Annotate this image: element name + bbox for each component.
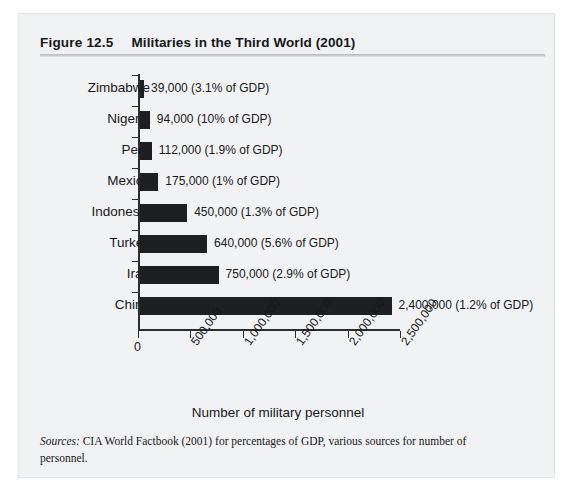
bar-row: Zimbabwe39,000 (3.1% of GDP) (18, 74, 555, 105)
bar (140, 142, 152, 160)
y-axis-tick (132, 261, 139, 262)
bar-value-label: 39,000 (3.1% of GDP) (151, 81, 269, 95)
bar (140, 266, 219, 284)
bar (140, 173, 158, 191)
source-note: Sources: CIA World Factbook (2001) for p… (40, 433, 510, 466)
x-axis-tick (138, 331, 139, 338)
bar-row: Peru112,000 (1.9% of GDP) (18, 136, 555, 167)
bar (140, 204, 187, 222)
bar-row: Iran750,000 (2.9% of GDP) (18, 260, 555, 291)
x-axis-title: Number of military personnel (138, 405, 418, 420)
bar-row: Indonesia450,000 (1.3% of GDP) (18, 198, 555, 229)
bar-value-label: 94,000 (10% of GDP) (157, 112, 272, 126)
bar-value-label: 750,000 (2.9% of GDP) (226, 267, 351, 281)
y-axis-tick (132, 137, 139, 138)
bar-value-label: 640,000 (5.6% of GDP) (214, 236, 339, 250)
bar-value-label: 450,000 (1.3% of GDP) (194, 205, 319, 219)
figure-container: Figure 12.5 Militaries in the Third Worl… (18, 13, 555, 478)
bar (140, 235, 207, 253)
y-axis-tick (132, 168, 139, 169)
bar-value-label: 112,000 (1.9% of GDP) (159, 143, 283, 157)
bar-row: Nigeria94,000 (10% of GDP) (18, 105, 555, 136)
bar-chart: Zimbabwe39,000 (3.1% of GDP)Nigeria94,00… (18, 13, 555, 478)
y-axis-tick (132, 199, 139, 200)
bar-row: Mexico175,000 (1% of GDP) (18, 167, 555, 198)
bar-value-label: 175,000 (1% of GDP) (165, 174, 280, 188)
y-axis-tick (132, 75, 139, 76)
source-note-text: CIA World Factbook (2001) for percentage… (40, 435, 466, 464)
bar (140, 80, 144, 98)
y-axis-tick (132, 106, 139, 107)
bar-row: Turkey640,000 (5.6% of GDP) (18, 229, 555, 260)
x-axis-tick-label: 0 (134, 340, 141, 354)
source-note-label: Sources: (40, 435, 80, 447)
bar-row: China2,400,000 (1.2% of GDP) (18, 291, 555, 322)
y-axis-tick (132, 230, 139, 231)
y-axis-tick (132, 292, 139, 293)
bar (140, 111, 150, 129)
